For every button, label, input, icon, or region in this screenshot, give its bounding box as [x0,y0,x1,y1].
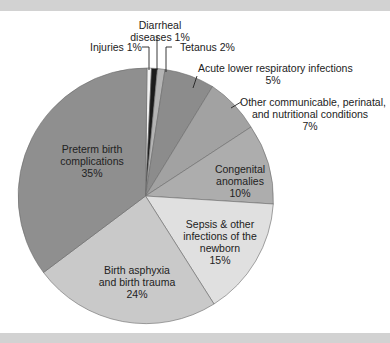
label-tetanus: Tetanus 2% [180,41,235,53]
label-injuries: Injuries 1% [90,41,142,53]
label-diarrheal: Diarrheal diseases 1% [130,19,190,43]
label-other: Other communicable, perinatal, and nutri… [240,96,380,132]
label-preterm: Preterm birth complications 35% [42,143,142,179]
leader-injuries [142,47,149,70]
leader-tetanus [166,47,172,72]
label-alri: Acute lower respiratory infections 5% [198,62,348,86]
label-congenital: Congenital anomalies 10% [200,163,280,199]
label-asphyxia: Birth asphyxia and birth trauma 24% [87,264,187,300]
label-sepsis: Sepsis & other infections of the newborn… [172,218,268,266]
